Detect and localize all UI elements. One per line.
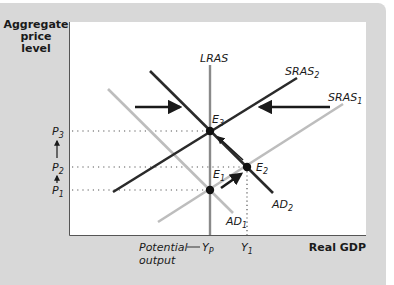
e2-point	[243, 163, 251, 171]
ad1-label: AD1	[225, 215, 247, 230]
e2-to-e3-arrow	[218, 137, 243, 160]
potential-output-label-line1: Potential	[139, 241, 188, 254]
as-ad-diagram: Aggregate price level P3 P2 P1 LRAS SRAS…	[0, 0, 394, 285]
sras1-curve	[158, 104, 343, 222]
p2-label: P2	[52, 161, 64, 176]
lras-label: LRAS	[200, 52, 228, 65]
sras1-label: SRAS1	[328, 91, 362, 106]
e3-point	[206, 127, 214, 135]
ad2-label: AD2	[271, 198, 293, 213]
y-axis-label-line3: level	[21, 42, 51, 55]
y1-label: Y1	[241, 241, 253, 256]
e3-label: E3	[212, 113, 224, 128]
sras2-label: SRAS2	[285, 65, 319, 80]
yp-label: YP	[202, 241, 214, 256]
p3-label: P3	[52, 125, 64, 140]
sras2-curve	[113, 78, 297, 192]
x-axis-label: Real GDP	[309, 241, 366, 254]
p1-label: P1	[52, 184, 64, 199]
e2-label: E2	[256, 161, 268, 176]
e1-label: E1	[213, 168, 225, 183]
e1-point	[206, 186, 214, 194]
potential-output-label-line2: output	[139, 254, 176, 267]
